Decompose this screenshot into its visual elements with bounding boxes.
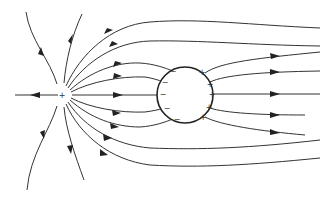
arrow-icon — [30, 92, 40, 98]
field-line-up-left — [26, 12, 57, 84]
negative-charge: − — [174, 115, 181, 124]
arrow-icon — [67, 145, 73, 154]
arrow-icon — [270, 69, 280, 75]
arrow-icon — [38, 47, 44, 56]
arrow-icon — [113, 92, 123, 98]
positive-charge: + — [199, 68, 206, 77]
field-line-diagram: − − − − − + + + + + + — [0, 0, 320, 199]
negative-charge: − — [162, 78, 169, 87]
negative-charge: − — [164, 104, 171, 113]
sphere-line-5 — [205, 117, 305, 135]
positive-charge: + — [209, 90, 216, 99]
positive-charge: + — [200, 113, 207, 122]
arrow-icon — [104, 28, 113, 34]
negative-charge: − — [170, 67, 177, 76]
sphere-line-1 — [205, 52, 320, 73]
field-line-down-left — [27, 106, 57, 190]
arrow-icon — [103, 134, 112, 141]
arrow-icon — [270, 112, 280, 118]
sphere-line-2 — [210, 71, 320, 82]
point-charge: + — [59, 91, 66, 100]
sphere-field-lines — [205, 52, 320, 135]
negative-charge: − — [160, 90, 167, 99]
arrow-icon — [270, 53, 280, 59]
arrow-icon — [40, 130, 45, 139]
positive-charge: + — [207, 80, 214, 89]
field-line-to-sphere-4 — [71, 98, 164, 112]
sphere-line-4 — [210, 108, 305, 115]
arrow-icon — [270, 91, 280, 97]
arrow-icon — [109, 41, 118, 47]
positive-charge: + — [206, 103, 213, 112]
